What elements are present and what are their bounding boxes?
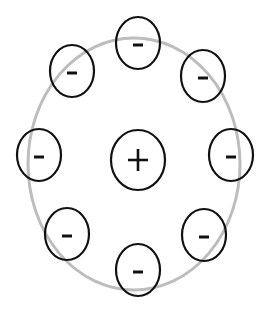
electron-circle: [45, 208, 89, 260]
electron-upper-right: [181, 50, 225, 102]
electron-circle: [116, 244, 160, 296]
electron-left: [17, 129, 61, 181]
electron-circle: [181, 50, 225, 102]
electron-lower-left: [45, 208, 89, 260]
electron-circle: [209, 129, 253, 181]
electron-circle: [17, 129, 61, 181]
plus-sign-icon: [128, 149, 148, 171]
electron-group: [17, 17, 253, 296]
electron-circle: [116, 17, 160, 69]
electron-bottom: [116, 244, 160, 296]
electron-top: [116, 17, 160, 69]
electron-circle: [50, 45, 94, 97]
electron-right: [209, 129, 253, 181]
electron-lower-right: [182, 209, 226, 261]
electron-circle: [182, 209, 226, 261]
nucleus-positive-charge: [111, 130, 165, 190]
electron-upper-left: [50, 45, 94, 97]
atom-diagram: [0, 0, 268, 312]
